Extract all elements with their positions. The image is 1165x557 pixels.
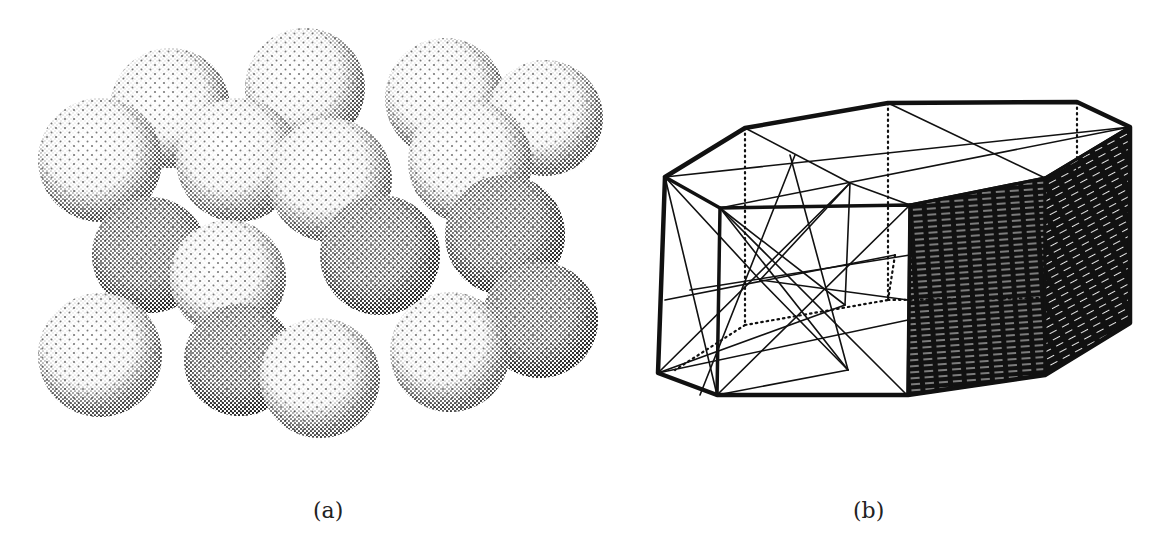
sphere-packing-diagram (38, 28, 603, 438)
figure-canvas (0, 0, 1165, 557)
hatched-end-face (1045, 127, 1130, 375)
panel-label-a: (a) (313, 498, 343, 523)
crystal-polyhedron-diagram (658, 102, 1130, 395)
hatched-front-right-face (908, 178, 1045, 395)
sphere (260, 318, 380, 438)
sphere (320, 195, 440, 315)
sphere (390, 292, 510, 412)
sphere (38, 293, 162, 417)
panel-label-b: (b) (853, 498, 884, 523)
